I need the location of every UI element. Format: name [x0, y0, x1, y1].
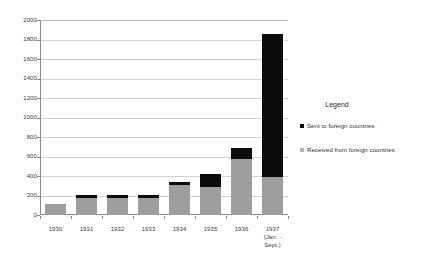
bar-stack — [262, 34, 282, 215]
x-tick-mark — [102, 216, 103, 219]
x-tick-label-year: 1933 — [142, 226, 156, 232]
y-tick-label: 600 — [3, 153, 37, 160]
x-tick-label: 1936 — [226, 225, 257, 233]
y-tick-label: 1600 — [3, 56, 37, 63]
legend-item[interactable]: Sent to foreign countries — [300, 122, 426, 130]
bar-segment-sent[interactable] — [200, 174, 220, 187]
bar-group[interactable] — [45, 20, 65, 215]
bar-segment-received[interactable] — [76, 198, 96, 215]
y-tick-label: 800 — [3, 134, 37, 141]
stacked-bar-chart: 2000180016001400120010008006004002000 19… — [0, 0, 428, 266]
bar-group[interactable] — [76, 20, 96, 215]
chart-legend: Legend Sent to foreign countriesReceived… — [300, 100, 426, 170]
x-tick-mark — [71, 216, 72, 219]
bar-group[interactable] — [262, 20, 282, 215]
x-tick-label: 1937(Jan. - Sept.) — [257, 225, 288, 249]
y-tick-label: 1200 — [3, 95, 37, 102]
x-tick-label-year: 1935 — [204, 226, 218, 232]
x-tick-label: 1934 — [164, 225, 195, 233]
bar-group[interactable] — [169, 20, 189, 215]
x-tick-mark — [257, 216, 258, 219]
bar-group[interactable] — [107, 20, 127, 215]
bar-segment-received[interactable] — [262, 177, 282, 216]
bar-stack — [76, 195, 96, 215]
x-tick-mark — [164, 216, 165, 219]
x-tick-label-sublabel: (Jan. - Sept.) — [257, 233, 288, 249]
x-tick-mark — [288, 216, 289, 219]
x-tick-label-year: 1937 — [266, 226, 280, 232]
x-tick-label: 1933 — [133, 225, 164, 233]
legend-item[interactable]: Received from foreign countries — [300, 146, 426, 154]
bar-group[interactable] — [200, 20, 220, 215]
legend-item-label: Received from foreign countries — [307, 146, 395, 154]
x-tick-label-year: 1932 — [111, 226, 125, 232]
x-tick-label: 1935 — [195, 225, 226, 233]
bar-group[interactable] — [231, 20, 251, 215]
y-tick-label: 1800 — [3, 36, 37, 43]
x-tick-label: 1932 — [102, 225, 133, 233]
y-tick-label: 200 — [3, 192, 37, 199]
y-axis: 2000180016001400120010008006004002000 — [0, 0, 37, 222]
bar-segment-received[interactable] — [138, 198, 158, 215]
y-tick-label: 0 — [3, 212, 37, 219]
y-tick-label: 2000 — [3, 17, 37, 24]
bar-segment-received[interactable] — [200, 187, 220, 215]
bar-segment-sent[interactable] — [231, 148, 251, 160]
x-tick-label-year: 1934 — [173, 226, 187, 232]
x-tick-label: 1930 — [40, 225, 71, 233]
bar-stack — [169, 182, 189, 215]
x-tick-label: 1931 — [71, 225, 102, 233]
bar-segment-received[interactable] — [107, 198, 127, 215]
x-tick-label-year: 1936 — [235, 226, 249, 232]
legend-swatch-icon — [300, 148, 304, 152]
legend-title: Legend — [304, 100, 370, 109]
bar-stack — [107, 195, 127, 215]
legend-item-label: Sent to foreign countries — [307, 122, 375, 130]
x-tick-mark — [40, 216, 41, 219]
legend-items: Sent to foreign countriesReceived from f… — [300, 122, 426, 154]
bar-segment-received[interactable] — [169, 185, 189, 215]
bar-segment-received[interactable] — [45, 204, 65, 215]
x-tick-label-year: 1931 — [80, 226, 94, 232]
bar-stack — [231, 148, 251, 215]
bar-stack — [138, 195, 158, 215]
bar-stack — [200, 174, 220, 215]
x-tick-mark — [133, 216, 134, 219]
bar-segment-sent[interactable] — [262, 34, 282, 176]
x-tick-mark — [226, 216, 227, 219]
x-tick-mark — [195, 216, 196, 219]
x-tick-label-year: 1930 — [49, 226, 63, 232]
bar-segment-received[interactable] — [231, 159, 251, 215]
bar-stack — [45, 204, 65, 215]
bar-group[interactable] — [138, 20, 158, 215]
x-axis: 19301931193219331934193519361937(Jan. - … — [40, 216, 288, 266]
y-tick-label: 1000 — [3, 114, 37, 121]
y-tick-label: 1400 — [3, 75, 37, 82]
legend-swatch-icon — [300, 124, 304, 128]
y-tick-label: 400 — [3, 173, 37, 180]
bars-layer — [40, 20, 288, 215]
